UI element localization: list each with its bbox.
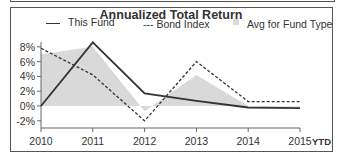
ytd-label: YTD [312,136,331,147]
y-tick-label: 2% [20,85,35,97]
y-tick-label: 4% [20,70,35,82]
x-tick-label: 2010 [29,135,53,147]
x-tick-label: 2011 [82,135,105,147]
y-tick-label: 6% [20,56,35,68]
area-avg-fund-type [41,47,300,111]
y-tick-label: 0% [20,100,35,112]
x-tick-label: 2012 [133,135,157,147]
plot-area: 8%6%4%2%0%-2%201020112012201320142015YTD [0,0,342,159]
x-tick-label: 2013 [185,135,209,147]
y-tick-label: 8% [20,41,35,53]
x-tick-label: 2014 [237,135,261,147]
y-tick-label: -2% [16,115,35,127]
x-tick-label: 2015 [288,135,312,147]
